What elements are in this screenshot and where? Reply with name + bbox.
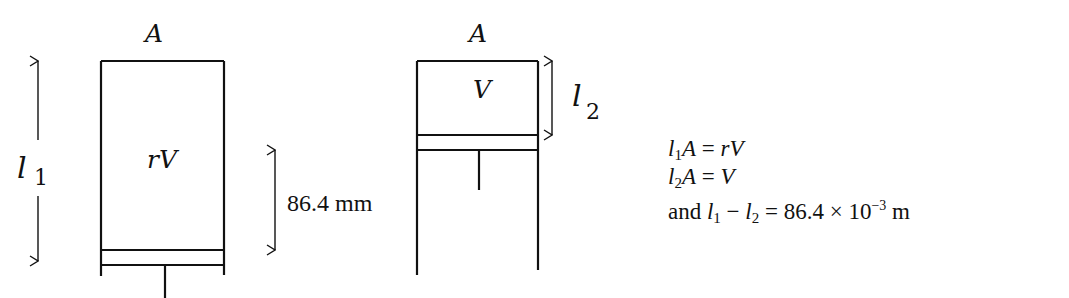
right-volume-label: V [473,75,494,104]
eq2-op: = [696,164,720,189]
eq1-sub: 1 [674,147,682,163]
eq1-rhs: rV [720,136,743,161]
eq3-op: = [759,199,783,224]
eq1-op: = [696,136,720,161]
l1-label-sub: 1 [34,165,48,190]
left-volume-label: rV [147,145,180,174]
left-area-label: A [143,19,163,48]
eq3-unit: m [886,199,910,224]
l1-label-var: l [17,150,27,185]
left-cylinder [101,61,224,298]
eq3-sub1: 1 [713,210,721,226]
eq1-a: A [682,136,696,161]
eq2-rhs: V [720,164,734,189]
eq3-minus: − [721,199,745,224]
eq3-exponent: −3 [871,198,886,213]
piston-diagram: l 1 A rV 86.4 mm A V l 2 [0,0,1069,298]
equation-3: and l1 − l2 = 86.4 × 10−3 m [668,192,910,232]
eq3-prefix: and [668,199,707,224]
displacement-label: 86.4 mm [287,190,373,216]
eq3-value: 86.4 × 10 [784,199,872,224]
l2-label-var: l [572,78,582,113]
l2-label-sub: 2 [586,99,600,124]
right-area-label: A [467,19,487,48]
eq2-sub: 2 [674,175,682,191]
eq2-a: A [682,164,696,189]
